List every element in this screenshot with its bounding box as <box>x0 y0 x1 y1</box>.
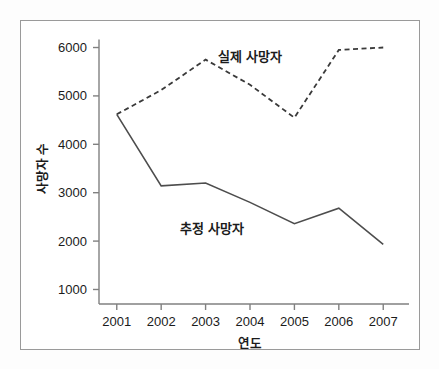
data-series-group <box>117 48 383 245</box>
y-tick-label: 4000 <box>58 137 87 152</box>
y-tick-label: 2000 <box>58 234 87 249</box>
series-annotation-2: 추정 사망자 <box>180 221 244 236</box>
figure-container: 100020003000400050006000 200120022003200… <box>0 0 439 369</box>
y-tick-label: 3000 <box>58 185 87 200</box>
x-tick-label: 2004 <box>236 314 265 329</box>
x-tick-label: 2005 <box>280 314 309 329</box>
x-axis-tick-group: 2001200220032004200520062007 <box>102 304 397 329</box>
y-tick-label: 6000 <box>58 40 87 55</box>
y-axis-title: 사망자 수 <box>35 143 50 194</box>
x-tick-label: 2007 <box>369 314 398 329</box>
series-annotation-1: 실제 사망자 <box>218 49 282 64</box>
series-line-2 <box>117 114 383 244</box>
y-axis-tick-group: 100020003000400050006000 <box>58 40 99 297</box>
chart-frame: 100020003000400050006000 200120022003200… <box>20 20 420 350</box>
y-tick-label: 1000 <box>58 282 87 297</box>
y-tick-label: 5000 <box>58 88 87 103</box>
x-tick-label: 2001 <box>102 314 131 329</box>
series-annotation-group: 실제 사망자추정 사망자 <box>180 49 281 236</box>
line-chart: 100020003000400050006000 200120022003200… <box>21 21 421 351</box>
x-tick-label: 2002 <box>147 314 176 329</box>
x-axis-title: 연도 <box>238 336 262 351</box>
x-tick-label: 2006 <box>324 314 353 329</box>
x-tick-label: 2003 <box>191 314 220 329</box>
